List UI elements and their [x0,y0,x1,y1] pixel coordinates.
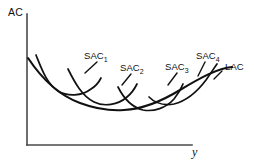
sac1-leader-line [85,62,97,73]
lac-label: LAC [225,62,244,72]
sac4-label-text: SAC [196,50,216,61]
sac1-label: SAC1 [84,51,108,63]
y-axis-label: AC [8,7,23,18]
sac4-label: SAC4 [196,51,220,63]
sac2-label-text: SAC [120,62,140,73]
x-axis-label: y [192,146,197,158]
sac4-label-subscript: 4 [216,56,220,63]
sac2-leader-line [122,74,131,85]
sac2-label: SAC2 [120,63,144,75]
sac3-leader-line [168,73,177,85]
sac4-leader-line [198,62,205,76]
sac1-label-text: SAC [84,50,104,61]
lac-sac-figure: AC y SAC1 SAC2 SAC3 SAC4 LAC [0,0,254,167]
figure-canvas [0,0,254,167]
sac3-label-text: SAC [165,61,185,72]
sac3-label: SAC3 [165,62,189,74]
sac1-label-subscript: 1 [104,56,108,63]
sac3-label-subscript: 3 [185,67,189,74]
sac2-label-subscript: 2 [140,68,144,75]
